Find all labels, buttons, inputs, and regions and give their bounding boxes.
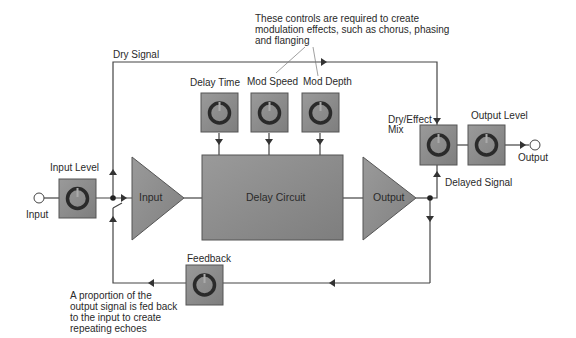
input-port-icon	[34, 193, 44, 203]
knob-mod-depth[interactable]	[302, 93, 339, 132]
output-port-label: Output	[518, 152, 548, 163]
feedback-note: A proportion of the output signal is fed…	[70, 290, 182, 334]
input-port-label: Input	[26, 209, 48, 220]
feedback-label: Feedback	[187, 253, 231, 264]
junction-dot-icon	[110, 195, 116, 201]
arrowhead-icon	[433, 171, 441, 177]
input-amp-label: Input	[139, 192, 162, 203]
modulation-note: These controls are required to create mo…	[255, 13, 455, 46]
mod-depth-label: Mod Depth	[303, 76, 352, 87]
delay-circuit-label: Delay Circuit	[246, 192, 306, 203]
delay-time-label: Delay Time	[190, 77, 240, 88]
arrowhead-icon	[426, 216, 434, 222]
knob-delay-time[interactable]	[201, 93, 238, 132]
knob-feedback[interactable]	[186, 265, 223, 305]
knob-input-level[interactable]	[59, 179, 96, 218]
input-level-label: Input Level	[50, 162, 99, 173]
arrowhead-icon	[215, 139, 223, 145]
knob-dry-effect-mix[interactable]	[420, 125, 457, 165]
arrowhead-icon	[520, 141, 526, 149]
delayed-signal-label: Delayed Signal	[445, 177, 512, 188]
knob-output-level[interactable]	[468, 125, 505, 165]
junction-dot-icon	[427, 195, 433, 201]
mod-speed-label: Mod Speed	[247, 76, 298, 87]
knob-mod-speed[interactable]	[251, 93, 288, 132]
arrowhead-icon	[433, 118, 441, 124]
arrowhead-icon	[316, 139, 324, 145]
dry-signal-label: Dry Signal	[113, 49, 159, 60]
arrowhead-icon	[148, 279, 154, 287]
arrowhead-icon	[321, 58, 327, 66]
dry-effect-mix-label-line2: Mix	[388, 124, 404, 135]
output-port-icon	[530, 140, 540, 150]
arrowhead-icon	[109, 169, 117, 175]
output-level-label: Output Level	[471, 110, 528, 121]
arrowhead-icon	[265, 139, 273, 145]
arrowhead-icon	[121, 194, 127, 202]
arrowhead-icon	[329, 279, 335, 287]
arrowhead-icon	[109, 216, 117, 222]
output-amp-label: Output	[373, 192, 405, 203]
